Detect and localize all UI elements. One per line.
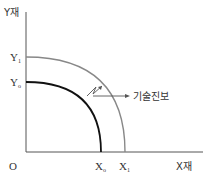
ppf-original-curve (26, 82, 101, 152)
y1-label: Y1 (10, 51, 21, 64)
origin-label: O (9, 160, 17, 172)
ppf-diagram: Y재 X재 O Y1 Yo Xo X1 기술진보 (0, 0, 208, 184)
technology-progress-label: 기술진보 (133, 91, 169, 102)
annotation-arrowhead-icon (125, 94, 130, 98)
x1-label: X1 (119, 160, 130, 173)
x-axis-label: X재 (176, 161, 192, 172)
ppf-shifted-curve (26, 57, 125, 152)
y-axis-label: Y재 (3, 7, 19, 18)
x0-label: Xo (95, 160, 106, 173)
y0-label: Yo (10, 76, 21, 89)
